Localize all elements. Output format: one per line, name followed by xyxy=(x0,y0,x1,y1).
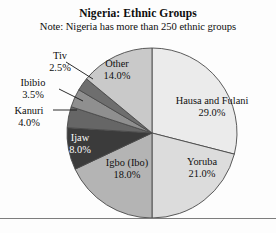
slice-label-yoruba-percent: 21.0% xyxy=(172,168,232,180)
slice-label-yoruba: Yoruba 21.0% xyxy=(172,156,232,179)
slice-label-ibibio: Ibibio 3.5% xyxy=(6,77,60,100)
slice-label-other-name: Other xyxy=(88,58,146,70)
slice-label-tiv: Tiv 2.5% xyxy=(38,50,82,73)
slice-label-ibibio-percent: 3.5% xyxy=(6,89,60,101)
slice-label-hausa-and-fulani-name: Hausa and Fulani xyxy=(158,95,266,107)
slice-label-other: Other 14.0% xyxy=(88,58,146,81)
slice-label-ijaw-name: Ijaw xyxy=(57,132,103,144)
slice-label-tiv-name: Tiv xyxy=(38,50,82,62)
slice-label-kanuri-percent: 4.0% xyxy=(1,117,57,129)
slice-label-ijaw-percent: 8.0% xyxy=(57,144,103,156)
pie-chart-figure: Nigeria: Ethnic Groups Note: Nigeria has… xyxy=(0,0,276,233)
slice-label-ijaw: Ijaw 8.0% xyxy=(57,132,103,155)
slice-label-kanuri: Kanuri 4.0% xyxy=(1,105,57,128)
slice-label-hausa-and-fulani-percent: 29.0% xyxy=(158,107,266,119)
slice-label-igbo: Igbo (Ibo) 18.0% xyxy=(84,157,170,180)
slice-label-ibibio-name: Ibibio xyxy=(6,77,60,89)
slice-label-igbo-percent: 18.0% xyxy=(84,169,170,181)
slice-label-hausa-and-fulani: Hausa and Fulani 29.0% xyxy=(158,95,266,118)
slice-label-other-percent: 14.0% xyxy=(88,70,146,82)
slice-label-tiv-percent: 2.5% xyxy=(38,62,82,74)
slice-label-yoruba-name: Yoruba xyxy=(172,156,232,168)
slice-label-kanuri-name: Kanuri xyxy=(1,105,57,117)
slice-label-igbo-name: Igbo (Ibo) xyxy=(84,157,170,169)
